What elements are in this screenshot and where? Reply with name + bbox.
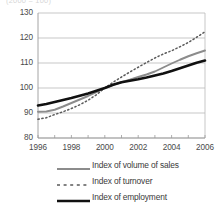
gridlines: [38, 13, 205, 138]
chart-legend: Index of volume of sales Index of turnov…: [0, 157, 218, 205]
solid-black-line-key: [57, 192, 90, 203]
legend-item-employment: Index of employment: [0, 189, 218, 205]
x-tick-label: 1996: [23, 143, 53, 152]
line-chart: (2000 = 100) 1301201101009080 1996199820…: [0, 0, 218, 211]
y-tick-label: 80: [11, 133, 33, 142]
legend-label-turnover: Index of turnover: [92, 176, 152, 186]
data-series-layer: [38, 32, 205, 120]
series-line-2: [38, 61, 205, 106]
y-tick-label: 110: [11, 58, 33, 67]
x-tick-label: 2006: [190, 143, 218, 152]
legend-label-volume-of-sales: Index of volume of sales: [92, 160, 179, 170]
y-tick-label: 120: [11, 33, 33, 42]
x-tick-label: 2004: [157, 143, 187, 152]
axis-lines: [38, 13, 205, 138]
y-tick-label: 100: [11, 83, 33, 92]
y-tick-label: 130: [11, 8, 33, 17]
legend-label-employment: Index of employment: [92, 192, 167, 202]
legend-item-turnover: Index of turnover: [0, 173, 218, 189]
x-tick-label: 1998: [56, 143, 86, 152]
solid-gray-line-key: [57, 160, 90, 171]
x-tick-label: 2002: [123, 143, 153, 152]
y-tick-label: 90: [11, 108, 33, 117]
legend-item-volume-of-sales: Index of volume of sales: [0, 157, 218, 173]
dotted-line-key: [57, 176, 90, 187]
x-tick-label: 2000: [90, 143, 120, 152]
